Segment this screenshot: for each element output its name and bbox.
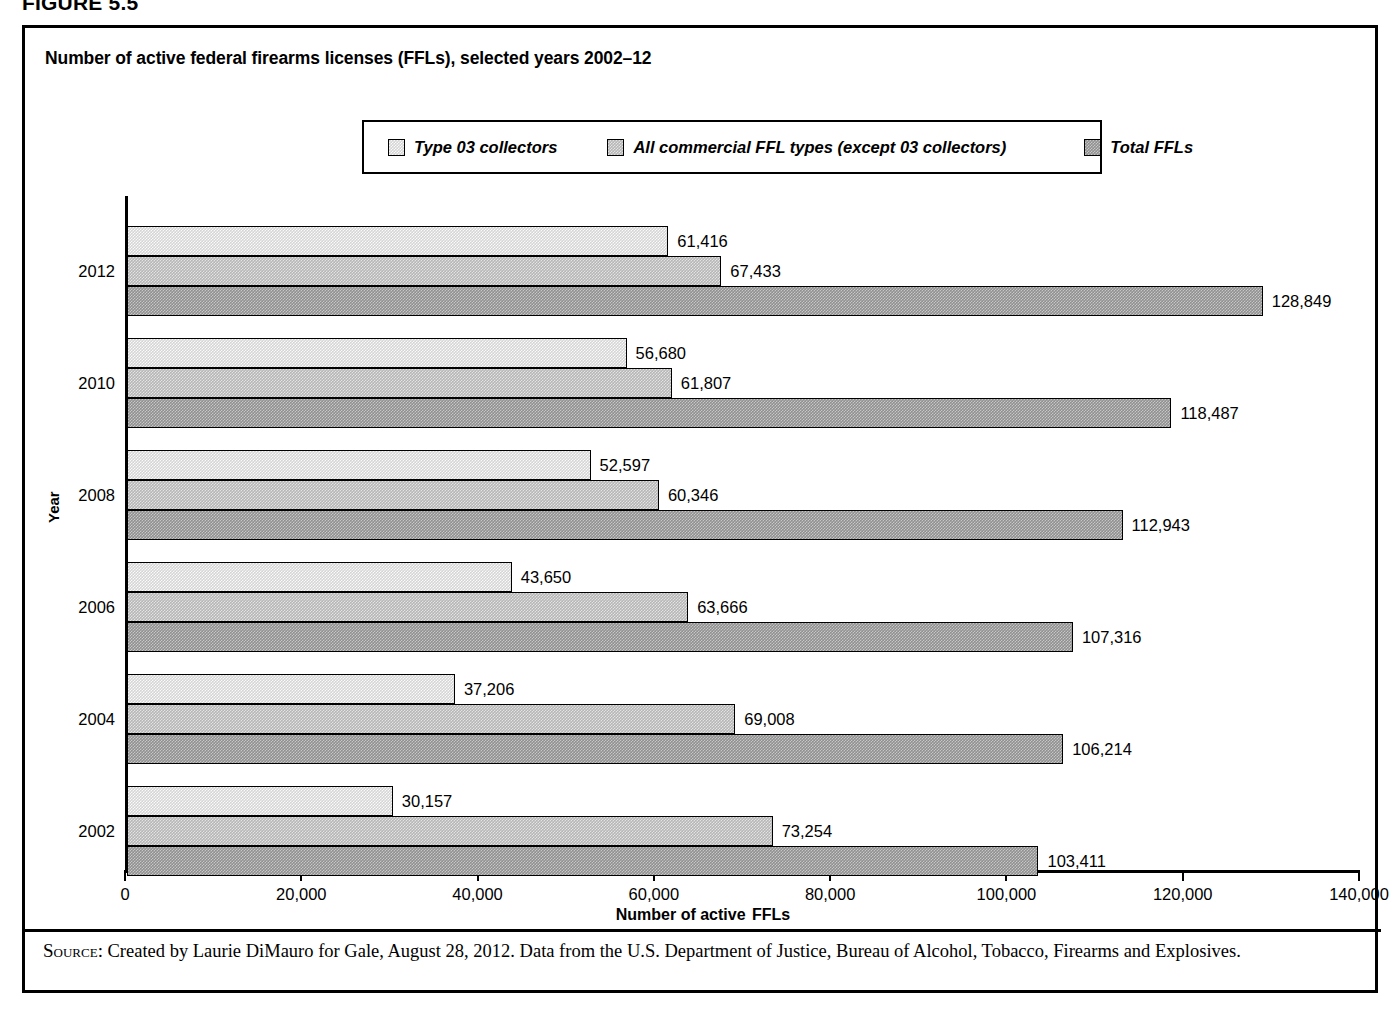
- bar-value-label: 52,597: [600, 450, 650, 480]
- bar-value-label: 43,650: [521, 562, 571, 592]
- bar-value-label: 61,807: [681, 368, 731, 398]
- bar-value-label: 30,157: [402, 786, 452, 816]
- bar[interactable]: [127, 398, 1171, 428]
- bar-value-label: 118,487: [1180, 398, 1238, 428]
- bar-value-label: 67,433: [730, 256, 780, 286]
- bar-group: 43,65063,666107,316: [127, 562, 1361, 652]
- bar[interactable]: [127, 562, 512, 592]
- x-axis-title-part2: FFLs: [752, 906, 790, 923]
- bar-value-label: 112,943: [1132, 510, 1190, 540]
- y-axis-category-label: 2002: [45, 822, 115, 841]
- mid-checker-swatch: [607, 139, 624, 156]
- x-axis-tick-label: 140,000: [1329, 885, 1389, 904]
- bar-value-label: 128,849: [1272, 286, 1332, 316]
- chart-legend: Type 03 collectors All commercial FFL ty…: [362, 120, 1102, 174]
- chart-title: Number of active federal firearms licens…: [45, 48, 651, 69]
- bar[interactable]: [127, 816, 773, 846]
- x-axis-tick-label: 120,000: [1153, 885, 1213, 904]
- light-checker-swatch: [388, 139, 405, 156]
- plot-area: 020,00040,00060,00080,000100,000120,0001…: [125, 196, 1365, 870]
- y-axis-category-label: 2010: [45, 374, 115, 393]
- bar-value-label: 61,416: [677, 226, 727, 256]
- bar-group: 30,15773,254103,411: [127, 786, 1361, 876]
- x-axis-tick-label: 80,000: [805, 885, 855, 904]
- bar-value-label: 56,680: [636, 338, 686, 368]
- x-axis-tick-label: 0: [120, 885, 129, 904]
- x-axis-tick-label: 20,000: [276, 885, 326, 904]
- bar[interactable]: [127, 592, 688, 622]
- dark-checker-swatch: [1084, 139, 1101, 156]
- bar-group: 56,68061,807118,487: [127, 338, 1361, 428]
- bar[interactable]: [127, 734, 1063, 764]
- bar[interactable]: [127, 226, 668, 256]
- bar[interactable]: [127, 704, 735, 734]
- legend-item-label: Total FFLs: [1110, 138, 1193, 157]
- bar[interactable]: [127, 368, 672, 398]
- bar[interactable]: [127, 450, 591, 480]
- bar[interactable]: [127, 480, 659, 510]
- bar[interactable]: [127, 338, 627, 368]
- bar[interactable]: [127, 256, 721, 286]
- legend-item-label: Type 03 collectors: [414, 138, 557, 157]
- bar[interactable]: [127, 786, 393, 816]
- bar-value-label: 73,254: [782, 816, 832, 846]
- legend-item-total-ffls[interactable]: Total FFLs: [1084, 138, 1193, 157]
- bar-value-label: 107,316: [1082, 622, 1142, 652]
- bar[interactable]: [127, 286, 1263, 316]
- source-note: Source: Created by Laurie DiMauro for Ga…: [43, 938, 1363, 963]
- bar[interactable]: [127, 674, 455, 704]
- figure-number-label: FIGURE 5.5: [22, 0, 138, 15]
- bar[interactable]: [127, 622, 1073, 652]
- legend-item-label: All commercial FFL types (except 03 coll…: [633, 138, 1006, 157]
- bar-group: 52,59760,346112,943: [127, 450, 1361, 540]
- x-axis-tick-label: 40,000: [452, 885, 502, 904]
- y-axis-category-label: 2006: [45, 598, 115, 617]
- bar-group: 61,41667,433128,849: [127, 226, 1361, 316]
- figure-container: Number of active federal firearms licens…: [22, 25, 1378, 993]
- bar[interactable]: [127, 510, 1123, 540]
- bar[interactable]: [127, 846, 1038, 876]
- legend-item-all-commercial-ffl-types[interactable]: All commercial FFL types (except 03 coll…: [607, 138, 1006, 157]
- bar-value-label: 37,206: [464, 674, 514, 704]
- x-axis-tick-label: 100,000: [977, 885, 1037, 904]
- y-axis-category-label: 2008: [45, 486, 115, 505]
- x-axis-title: Number of active FFLs: [25, 906, 1381, 924]
- legend-item-type-03-collectors[interactable]: Type 03 collectors: [388, 138, 557, 157]
- bar-value-label: 106,214: [1072, 734, 1132, 764]
- bar-value-label: 103,411: [1047, 846, 1105, 876]
- y-axis-category-label: 2012: [45, 262, 115, 281]
- x-axis-title-part1: Number of active: [616, 906, 746, 923]
- x-axis-tick: [124, 870, 126, 881]
- x-axis-tick-label: 60,000: [629, 885, 679, 904]
- bar-value-label: 60,346: [668, 480, 718, 510]
- bar-value-label: 63,666: [697, 592, 747, 622]
- source-divider: [25, 929, 1381, 932]
- source-label: Source:: [43, 940, 103, 961]
- bar-value-label: 69,008: [744, 704, 794, 734]
- source-text: Created by Laurie DiMauro for Gale, Augu…: [103, 941, 1241, 961]
- bar-group: 37,20669,008106,214: [127, 674, 1361, 764]
- y-axis-category-label: 2004: [45, 710, 115, 729]
